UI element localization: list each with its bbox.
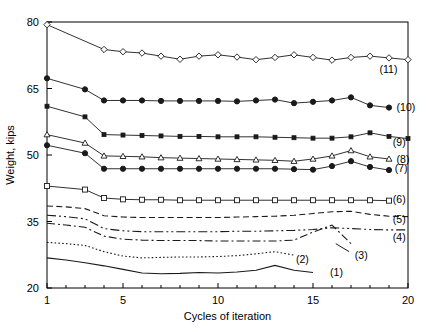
y-axis-title: Weight, kips	[4, 125, 16, 185]
data-marker	[197, 198, 202, 203]
data-marker	[140, 197, 145, 202]
weight-vs-cycles-chart: 151015202035506580Cycles of iterationWei…	[0, 0, 428, 332]
data-marker	[121, 133, 125, 137]
data-marker	[310, 167, 315, 172]
data-marker	[196, 166, 201, 171]
x-tick-label: 20	[402, 294, 414, 306]
series-label-9: (9)	[393, 136, 406, 148]
series-label-4: (4)	[393, 231, 406, 243]
x-tick-label: 10	[212, 294, 224, 306]
data-marker	[177, 98, 182, 103]
data-marker	[348, 54, 354, 60]
data-marker	[234, 166, 239, 171]
data-marker	[177, 166, 182, 171]
y-tick-label: 50	[27, 149, 39, 161]
data-marker	[120, 166, 125, 171]
chart-canvas: 151015202035506580Cycles of iterationWei…	[0, 0, 428, 332]
data-marker	[101, 46, 107, 52]
data-marker	[83, 187, 88, 192]
data-marker	[329, 57, 335, 63]
data-marker	[272, 166, 277, 171]
data-marker	[235, 135, 239, 139]
data-marker	[101, 98, 106, 103]
series-5[interactable]: (5)	[47, 206, 408, 225]
data-marker	[348, 95, 353, 100]
data-marker	[253, 98, 258, 103]
data-marker	[102, 133, 106, 137]
series-leader-line	[336, 244, 349, 252]
data-marker	[273, 198, 278, 203]
data-marker	[140, 133, 144, 137]
series-9[interactable]: (9)	[45, 104, 410, 148]
series-3[interactable]: (3)	[47, 223, 368, 260]
series-4[interactable]: (4)	[47, 215, 408, 243]
data-marker	[196, 53, 202, 59]
data-marker	[45, 104, 49, 108]
series-label-6: (6)	[393, 193, 406, 205]
data-marker	[254, 135, 258, 139]
data-marker	[291, 101, 296, 106]
data-marker	[216, 135, 220, 139]
data-marker	[196, 98, 201, 103]
data-marker	[159, 197, 164, 202]
data-marker	[121, 197, 126, 202]
series-label-1: (1)	[330, 266, 343, 278]
data-marker	[292, 136, 296, 140]
data-marker	[158, 98, 163, 103]
series-2[interactable]: (2)	[47, 242, 309, 265]
data-marker	[254, 198, 259, 203]
data-marker	[45, 184, 50, 189]
data-marker	[368, 198, 373, 203]
data-marker	[82, 87, 87, 92]
data-marker	[139, 98, 144, 103]
x-axis-title: Cycles of iteration	[184, 310, 271, 322]
series-7[interactable]: (7)	[44, 143, 407, 174]
data-marker	[386, 105, 391, 110]
data-marker	[215, 98, 220, 103]
data-marker	[44, 143, 49, 148]
data-marker	[158, 166, 163, 171]
series-11[interactable]: (11)	[44, 21, 411, 75]
series-line	[47, 223, 351, 243]
data-marker	[253, 166, 258, 171]
data-marker	[330, 136, 334, 140]
data-marker	[272, 54, 278, 60]
data-marker	[348, 148, 354, 153]
series-label-5: (5)	[393, 213, 406, 225]
y-tick-label: 65	[27, 83, 39, 95]
data-marker	[405, 56, 411, 62]
data-marker	[253, 56, 259, 62]
data-marker	[101, 166, 106, 171]
data-marker	[234, 99, 239, 104]
data-marker	[330, 198, 335, 203]
data-marker	[367, 164, 372, 169]
data-marker	[215, 166, 220, 171]
series-label-8: (8)	[397, 153, 410, 165]
data-marker	[349, 135, 353, 139]
series-line	[47, 25, 408, 60]
data-marker	[178, 134, 182, 138]
data-marker	[234, 54, 240, 60]
data-marker	[158, 53, 164, 59]
x-tick-label: 1	[44, 294, 50, 306]
series-line	[47, 206, 408, 218]
data-marker	[235, 198, 240, 203]
x-tick-label: 5	[120, 294, 126, 306]
series-6[interactable]: (6)	[45, 184, 406, 206]
y-tick-label: 20	[27, 282, 39, 294]
series-label-11: (11)	[380, 63, 398, 75]
series-10[interactable]: (10)	[44, 76, 415, 113]
y-tick-label: 35	[27, 216, 39, 228]
data-marker	[44, 76, 49, 81]
data-marker	[272, 97, 277, 102]
data-marker	[44, 132, 50, 137]
series-label-10: (10)	[397, 101, 416, 113]
data-marker	[310, 54, 316, 60]
data-marker	[386, 55, 392, 61]
data-marker	[273, 135, 277, 139]
data-marker	[139, 166, 144, 171]
data-marker	[215, 52, 221, 58]
data-marker	[82, 151, 87, 156]
data-marker	[367, 53, 373, 59]
data-marker	[367, 103, 372, 108]
